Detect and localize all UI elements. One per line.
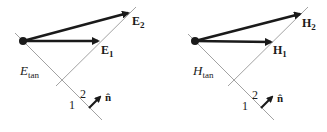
label-h1-symbol: H (273, 43, 282, 57)
normal-label: n̂ (277, 93, 283, 104)
diagram-canvas (0, 0, 327, 132)
label-e-tan: Etan (20, 64, 39, 80)
label-h2-symbol: H (302, 16, 311, 30)
label-e1-subscript: 1 (109, 49, 114, 59)
label-e2-subscript: 2 (140, 20, 145, 30)
origin-dot (19, 37, 27, 45)
label-h-tan: Htan (193, 64, 213, 80)
label-e2-symbol: E (132, 14, 140, 28)
label-h2: H2 (302, 17, 316, 32)
normal-label: n̂ (105, 92, 111, 103)
vector-e2-arrow (23, 13, 128, 41)
region-2-label: 2 (252, 89, 258, 101)
tangent-projection-line (56, 7, 136, 86)
origin-dot (191, 37, 199, 45)
label-h1: H1 (273, 44, 287, 59)
tangent-projection-line (228, 7, 308, 86)
label-e-tan-subscript: tan (28, 70, 39, 80)
region-2-label: 2 (80, 88, 86, 100)
vector-h2-arrow (195, 14, 300, 41)
label-e1: E1 (101, 44, 114, 59)
label-e-tan-symbol: E (20, 63, 28, 78)
label-e2: E2 (132, 15, 145, 30)
label-e1-symbol: E (101, 43, 109, 57)
vector-h1-arrow (195, 41, 271, 42)
label-h2-subscript: 2 (311, 22, 316, 32)
normal-arrow (89, 97, 100, 108)
region-1-label: 1 (242, 100, 248, 112)
label-h-tan-subscript: tan (202, 70, 213, 80)
label-h-tan-symbol: H (193, 63, 202, 78)
label-h1-subscript: 1 (282, 49, 287, 59)
normal-arrow (261, 97, 272, 108)
region-1-label: 1 (69, 99, 75, 111)
